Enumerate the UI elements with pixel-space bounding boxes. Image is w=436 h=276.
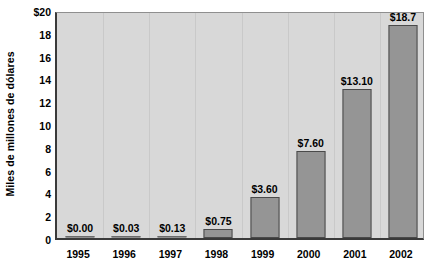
bar[interactable] <box>112 236 141 238</box>
plot-area: $0.00$0.03$0.13$0.75$3.60$7.60$13.10$18.… <box>55 12 424 240</box>
bar-group: $13.10 <box>334 13 380 238</box>
x-axis-tick-label: 1998 <box>205 248 228 260</box>
bar-data-label: $0.00 <box>67 222 93 234</box>
x-axis-tick-label: 1999 <box>251 248 274 260</box>
y-axis-tick-label: 18 <box>39 29 51 41</box>
x-axis-tick-labels: 19951996199719981999200020012002 <box>55 248 424 268</box>
bar-data-label: $13.10 <box>341 75 373 87</box>
bar-group: $0.03 <box>103 13 149 238</box>
bar-group: $0.13 <box>149 13 195 238</box>
bar[interactable] <box>250 197 279 238</box>
y-axis-tick-label: 2 <box>45 211 51 223</box>
y-axis-tick-labels: 024681012141618$20 <box>20 12 53 240</box>
y-axis-tick-label: 14 <box>39 74 51 86</box>
bar-group: $3.60 <box>242 13 288 238</box>
plot-inner: $0.00$0.03$0.13$0.75$3.60$7.60$13.10$18.… <box>57 13 423 238</box>
bar-group: $7.60 <box>288 13 334 238</box>
bar-data-label: $7.60 <box>298 137 324 149</box>
x-axis-tick-label: 1996 <box>113 248 136 260</box>
bar-group: $18.7 <box>380 13 424 238</box>
bar-group: $0.00 <box>57 13 103 238</box>
x-axis-tick-label: 2001 <box>343 248 366 260</box>
bars-layer: $0.00$0.03$0.13$0.75$3.60$7.60$13.10$18.… <box>57 13 423 238</box>
y-axis-tick-label: 6 <box>45 166 51 178</box>
y-axis-tick-label: 0 <box>45 234 51 246</box>
y-axis-tick-label: 12 <box>39 97 51 109</box>
bar-data-label: $3.60 <box>251 183 277 195</box>
x-axis-tick-label: 2002 <box>389 248 412 260</box>
bar[interactable] <box>66 236 95 238</box>
bar-data-label: $0.75 <box>205 215 231 227</box>
bar[interactable] <box>296 151 325 238</box>
y-axis-tick-label: 10 <box>39 120 51 132</box>
bar-group: $0.75 <box>195 13 241 238</box>
y-axis-title: Miles de millones de dólares <box>0 0 20 248</box>
bar-data-label: $0.13 <box>159 222 185 234</box>
bar[interactable] <box>158 236 187 238</box>
y-axis-tick-label: 8 <box>45 143 51 155</box>
bar-data-label: $0.03 <box>113 222 139 234</box>
y-axis-tick-label: 4 <box>45 188 51 200</box>
y-axis-tick-label: 16 <box>39 52 51 64</box>
x-axis-tick-label: 1997 <box>159 248 182 260</box>
bar-chart: Miles de millones de dólares 02468101214… <box>0 0 436 276</box>
y-axis-tick-label: $20 <box>33 6 51 18</box>
bar[interactable] <box>204 229 233 238</box>
bar-data-label: $18.7 <box>390 12 416 23</box>
bar[interactable] <box>388 25 417 238</box>
x-axis-tick-label: 2000 <box>297 248 320 260</box>
x-axis-tick-label: 1995 <box>66 248 89 260</box>
bar[interactable] <box>342 89 371 238</box>
y-axis-title-text: Miles de millones de dólares <box>4 51 16 196</box>
